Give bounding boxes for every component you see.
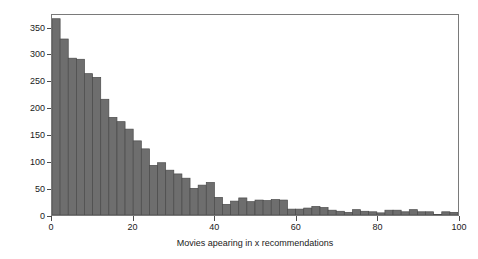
histogram-bar bbox=[296, 209, 304, 215]
histogram-bar bbox=[239, 198, 247, 215]
y-tick-label: 50 bbox=[35, 185, 45, 194]
histogram-bar bbox=[206, 182, 214, 215]
histogram-bar bbox=[133, 141, 141, 215]
histogram-bar bbox=[190, 188, 198, 215]
x-axis: 020406080100 Movies apearing in x recomm… bbox=[0, 216, 478, 259]
histogram-bar bbox=[117, 122, 125, 215]
histogram-bar bbox=[352, 210, 360, 215]
histogram-bar bbox=[141, 149, 149, 215]
histogram-bar bbox=[271, 200, 279, 215]
histogram-figure: Number of movies 050100150200250300350 0… bbox=[0, 0, 478, 259]
histogram-bar bbox=[393, 210, 401, 215]
plot-area bbox=[51, 14, 459, 216]
histogram-bar bbox=[76, 59, 84, 215]
y-tick-label: 300 bbox=[30, 50, 45, 59]
x-tick-label: 60 bbox=[291, 223, 301, 232]
histogram-bar bbox=[109, 117, 117, 215]
histogram-bar bbox=[247, 202, 255, 215]
histogram-bar bbox=[304, 208, 312, 215]
histogram-bar bbox=[450, 212, 458, 215]
histogram-bar bbox=[312, 206, 320, 215]
histogram-bar bbox=[223, 204, 231, 215]
histogram-bar bbox=[182, 178, 190, 215]
x-tick-label: 100 bbox=[451, 223, 466, 232]
histogram-bar bbox=[84, 74, 92, 215]
histogram-bar bbox=[174, 174, 182, 215]
histogram-bar bbox=[125, 129, 133, 215]
x-tick-mark bbox=[377, 216, 378, 221]
histogram-bar bbox=[361, 211, 369, 215]
histogram-bar bbox=[409, 210, 417, 215]
y-tick-label: 350 bbox=[30, 23, 45, 32]
histogram-bar bbox=[101, 99, 109, 215]
histogram-bar bbox=[93, 77, 101, 215]
y-tick-label: 200 bbox=[30, 104, 45, 113]
histogram-bar bbox=[377, 213, 385, 215]
histogram-bar bbox=[336, 211, 344, 215]
x-tick-mark bbox=[51, 216, 52, 221]
histogram-bar bbox=[328, 210, 336, 215]
histogram-bar bbox=[369, 212, 377, 215]
histogram-bar bbox=[279, 200, 287, 215]
histogram-bar bbox=[68, 58, 76, 215]
histogram-bar bbox=[263, 201, 271, 215]
x-tick-mark bbox=[214, 216, 215, 221]
histogram-bar bbox=[287, 209, 295, 215]
x-tick-label: 0 bbox=[48, 223, 53, 232]
histogram-bar bbox=[60, 39, 68, 215]
x-tick-label: 80 bbox=[372, 223, 382, 232]
histogram-bar bbox=[320, 208, 328, 215]
histogram-bar bbox=[417, 212, 425, 215]
x-tick-mark bbox=[133, 216, 134, 221]
histogram-bar bbox=[434, 214, 442, 215]
histogram-bar bbox=[149, 165, 157, 215]
y-tick-label: 150 bbox=[30, 131, 45, 140]
x-tick-mark bbox=[296, 216, 297, 221]
histogram-bars bbox=[52, 15, 458, 215]
histogram-bar bbox=[198, 185, 206, 215]
y-tick-label: 100 bbox=[30, 158, 45, 167]
x-axis-title: Movies apearing in x recommendations bbox=[177, 238, 334, 248]
x-tick-label: 20 bbox=[128, 223, 138, 232]
y-tick-label: 250 bbox=[30, 77, 45, 86]
histogram-bar bbox=[344, 212, 352, 215]
histogram-bar bbox=[214, 197, 222, 215]
histogram-bar bbox=[158, 163, 166, 215]
histogram-bar bbox=[231, 201, 239, 215]
histogram-bar bbox=[52, 19, 60, 215]
x-tick-mark bbox=[459, 216, 460, 221]
histogram-bar bbox=[426, 212, 434, 215]
histogram-bar bbox=[255, 200, 263, 215]
histogram-bar bbox=[401, 212, 409, 215]
histogram-bar bbox=[385, 210, 393, 215]
histogram-bar bbox=[442, 212, 450, 215]
x-tick-label: 40 bbox=[209, 223, 219, 232]
histogram-bar bbox=[166, 170, 174, 215]
